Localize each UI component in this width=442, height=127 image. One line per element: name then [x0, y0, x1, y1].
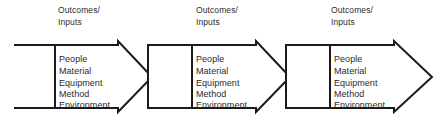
- block-1-item-3: Method: [59, 89, 89, 99]
- header-label-3-line1: Outcomes/: [331, 5, 374, 15]
- header-label-2-line2: Inputs: [196, 17, 220, 27]
- block-1-item-0: People: [59, 54, 87, 64]
- header-label-2: Outcomes/ Inputs: [196, 5, 239, 27]
- block-2-item-4: Environment: [196, 100, 248, 110]
- process-block-2: People Material Equipment Method Environ…: [148, 41, 290, 112]
- block-3-item-3: Method: [334, 89, 364, 99]
- header-label-1: Outcomes/ Inputs: [58, 5, 101, 27]
- header-label-3: Outcomes/ Inputs: [331, 5, 374, 27]
- block-2-item-2: Equipment: [196, 78, 240, 88]
- header-label-1-line2: Inputs: [58, 17, 82, 27]
- flow-diagram-canvas: People Material Equipment Method Environ…: [0, 0, 442, 127]
- block-2-item-1: Material: [196, 66, 228, 76]
- block-3-item-1: Material: [334, 66, 366, 76]
- block-3-item-0: People: [334, 54, 362, 64]
- block-1-item-list: People Material Equipment Method Environ…: [59, 54, 111, 110]
- block-1-item-1: Material: [59, 66, 91, 76]
- block-1-item-4: Environment: [59, 100, 111, 110]
- process-block-1: People Material Equipment Method Environ…: [14, 41, 152, 112]
- header-label-2-line1: Outcomes/: [196, 5, 239, 15]
- block-2-item-3: Method: [196, 89, 226, 99]
- process-flow-diagram: People Material Equipment Method Environ…: [0, 0, 442, 127]
- header-label-3-line2: Inputs: [331, 17, 355, 27]
- header-label-1-line1: Outcomes/: [58, 5, 101, 15]
- block-1-item-2: Equipment: [59, 78, 103, 88]
- process-block-3: People Material Equipment Method Environ…: [286, 41, 432, 112]
- block-3-item-2: Equipment: [334, 78, 378, 88]
- block-3-item-4: Environment: [334, 100, 386, 110]
- block-2-item-0: People: [196, 54, 224, 64]
